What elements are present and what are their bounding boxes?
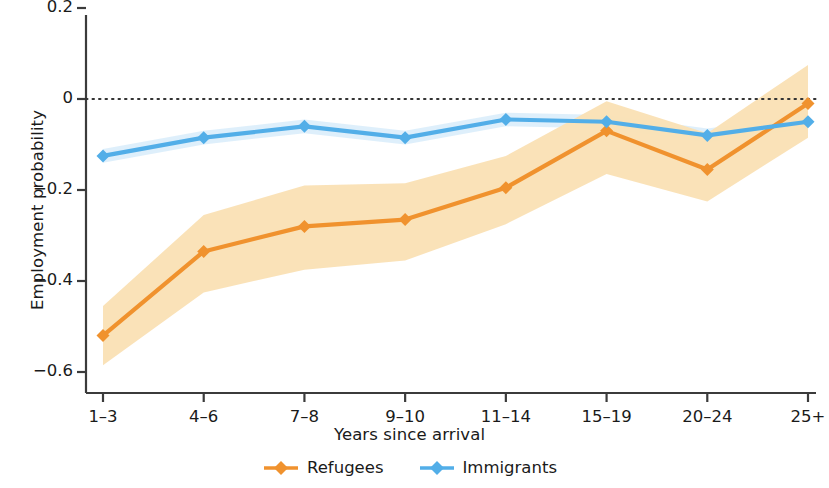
x-tick-label: 4–6 [159,407,249,426]
confidence-bands [103,65,808,365]
x-tick-label: 9–10 [360,407,450,426]
legend-item-refugees[interactable]: Refugees [262,458,384,477]
x-tick-label: 1–3 [58,407,148,426]
chart-legend: RefugeesImmigrants [0,458,819,477]
x-tick-label: 20–24 [662,407,752,426]
x-axis-title: Years since arrival [0,425,819,444]
legend-marker-icon [262,459,300,477]
legend-label: Refugees [307,458,384,477]
y-tick-label: −0.6 [13,361,73,380]
x-tick-label: 11–14 [461,407,551,426]
x-tick-label: 7–8 [259,407,349,426]
legend-item-immigrants[interactable]: Immigrants [418,458,558,477]
y-tick-label: 0.2 [13,0,73,16]
y-tick-label: −0.4 [13,270,73,289]
x-tick-label: 25+ [763,407,829,426]
x-tick-label: 15–19 [562,407,652,426]
y-tick-label: −0.2 [13,179,73,198]
legend-label: Immigrants [463,458,558,477]
legend-marker-icon [418,459,456,477]
y-tick-label: 0 [13,88,73,107]
